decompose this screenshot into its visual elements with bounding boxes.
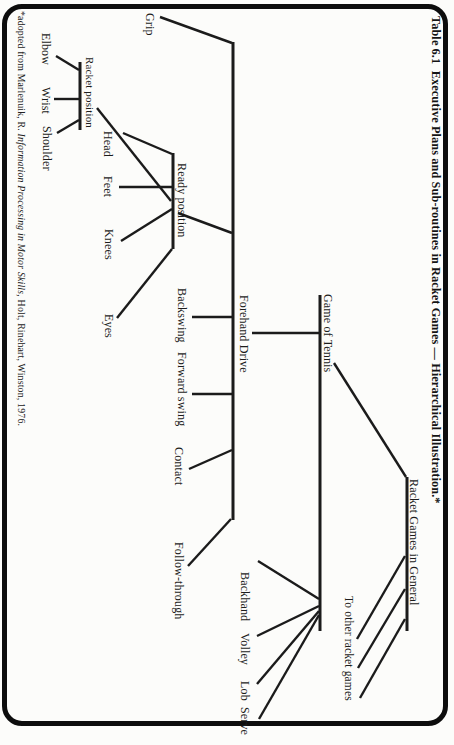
edge-forehand-to-contact	[189, 450, 232, 469]
edge-root-to-game-of-tennis	[334, 363, 406, 477]
node-head: Head	[100, 131, 115, 157]
edge-forehand-to-follow-through	[188, 519, 231, 566]
edge-racket-to-elbow	[56, 56, 79, 70]
node-contact: Contact	[171, 447, 186, 485]
node-shoulder: Shoulder	[39, 126, 54, 171]
node-racket-position: Racket position	[84, 57, 96, 128]
edge-ready-to-eyes	[117, 249, 172, 318]
node-volley: Volley	[237, 633, 252, 665]
hierarchy-tree-lines	[0, 0, 454, 745]
edge-forehand-to-grip	[160, 17, 232, 43]
node-backswing: Backswing	[174, 288, 189, 343]
footnote: *adopted from Marlenuik, R. Information …	[16, 11, 27, 426]
footnote-book-title: Information Processing in Motor Skills,	[16, 134, 27, 297]
node-serve: Serve	[237, 707, 252, 735]
footnote-suffix: Holt, Rinehart, Winston, 1976.	[16, 297, 27, 426]
node-grip: Grip	[142, 13, 157, 36]
node-feet: Feet	[100, 176, 115, 197]
node-racket-games-in-general: Racket Games in General	[406, 479, 421, 605]
node-game-of-tennis: Game of Tennis	[320, 294, 335, 372]
node-eyes: Eyes	[101, 314, 116, 338]
node-forward-swing: Forward swing	[174, 352, 189, 426]
edge-root-to-other-3	[360, 619, 405, 698]
node-backhand: Backhand	[237, 572, 252, 621]
node-elbow: Elbow	[38, 33, 53, 65]
node-ready-position: Ready position	[174, 163, 189, 237]
edge-root-to-other-1	[357, 556, 405, 639]
node-follow-through: Follow-through	[171, 542, 186, 619]
node-lob: Lob	[237, 681, 252, 701]
node-to-other-racket-games: To other racket games	[343, 596, 355, 701]
node-knees: Knees	[101, 229, 116, 260]
edge-root-to-other-2	[358, 589, 405, 668]
edge-racket-to-shoulder	[57, 120, 79, 133]
edge-game-to-backhand	[258, 561, 319, 599]
node-forehand-drive: Forehand Drive	[236, 295, 251, 373]
node-wrist: Wrist	[38, 87, 53, 114]
rotated-book-page: Table 6.1 Executive Plans and Sub-routin…	[0, 0, 454, 745]
footnote-prefix: *adopted from Marlenuik, R.	[16, 11, 27, 134]
edge-ready-to-knees	[121, 209, 172, 241]
